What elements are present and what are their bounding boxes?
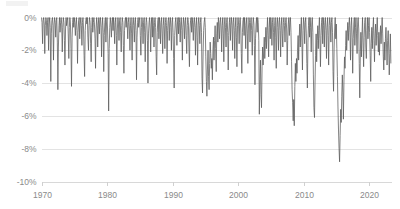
y-tick-label: -8% — [21, 144, 37, 154]
x-axis-tick-labels: 197019801990200020102020 — [33, 190, 379, 200]
y-axis-tick-labels: 0%-2%-4%-6%-8%-10% — [17, 13, 37, 187]
x-tick-label: 1970 — [33, 190, 52, 200]
x-tick-label: 2010 — [295, 190, 314, 200]
x-tick-label: 2000 — [229, 190, 248, 200]
x-tick-label: 1990 — [164, 190, 183, 200]
x-tick-label: 2020 — [360, 190, 379, 200]
x-tick-label: 1980 — [98, 190, 117, 200]
drawdown-series-line — [42, 18, 391, 162]
y-tick-label: -2% — [21, 45, 37, 55]
y-tick-label: -6% — [21, 111, 37, 121]
chart-canvas: 0%-2%-4%-6%-8%-10% 197019801990200020102… — [0, 0, 400, 209]
y-tick-label: -10% — [17, 177, 37, 187]
y-tick-label: 0% — [24, 13, 37, 23]
y-tick-label: -4% — [21, 78, 37, 88]
drawdown-chart: 0%-2%-4%-6%-8%-10% 197019801990200020102… — [0, 0, 400, 209]
